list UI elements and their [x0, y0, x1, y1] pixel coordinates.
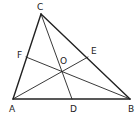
label-point-a: A — [9, 104, 16, 114]
segments — [13, 14, 130, 99]
label-point-b: B — [128, 104, 134, 114]
label-point-c: C — [37, 2, 43, 12]
triangle-diagram: ABCDEFO — [0, 0, 139, 119]
label-point-d: D — [70, 104, 77, 114]
segment-bc — [41, 14, 130, 99]
segment-bf — [26, 57, 130, 99]
label-point-f: F — [17, 50, 22, 60]
label-point-o: O — [60, 56, 67, 66]
label-point-e: E — [91, 46, 97, 56]
segment-cd — [41, 14, 72, 99]
diagram-canvas: ABCDEFO — [0, 0, 139, 119]
